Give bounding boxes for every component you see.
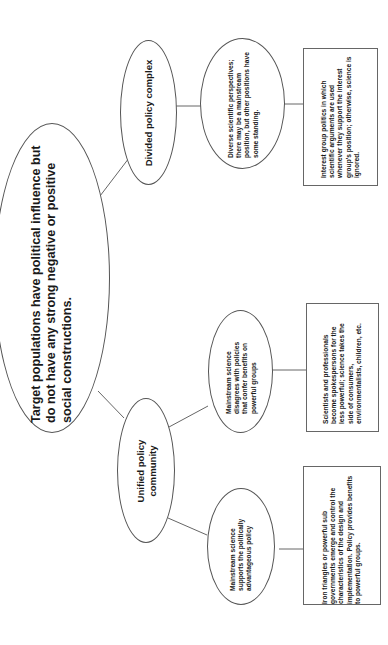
mainstream-supports-ellipse: Mainstream science supports the politica…	[207, 488, 275, 605]
mainstream-disagrees-ellipse: Mainstream science disagrees with polici…	[208, 310, 273, 433]
diverse-perspectives-ellipse: Diverse scientific perspectives; there m…	[200, 38, 285, 169]
iron-triangles-box: Iron triangles or powerful sub governmen…	[303, 466, 381, 605]
scientists-spokespersons-box: Scientists and professionals become spok…	[306, 303, 379, 432]
iron-triangles-text: Iron triangles or powerful sub governmen…	[321, 468, 362, 604]
unified-policy-community-label: Unified policy community	[135, 416, 158, 526]
diverse-perspectives-text: Diverse scientific perspectives; there m…	[226, 50, 259, 158]
unified-policy-community-ellipse: Unified policy community	[117, 398, 175, 543]
policy-diagram: Target populations have political influe…	[0, 0, 388, 645]
connector-unified-to-disagrees	[169, 406, 208, 427]
root-text: Target populations have political influe…	[29, 133, 75, 423]
mainstream-supports-text: Mainstream science supports the politica…	[229, 503, 254, 591]
connector-root-to-divided	[100, 158, 129, 196]
mainstream-disagrees-text: Mainstream science disagrees with polici…	[224, 330, 257, 414]
interest-group-politics-box: Interest group politics in which scienti…	[303, 48, 378, 186]
connector-root-to-unified	[98, 391, 124, 418]
divided-policy-complex-ellipse: Divided policy complex	[120, 40, 177, 185]
divided-policy-complex-label: Divided policy complex	[143, 58, 155, 168]
interest-group-politics-text: Interest group politics in which scienti…	[320, 56, 361, 178]
scientists-spokespersons-text: Scientists and professionals become spok…	[322, 312, 363, 424]
connector-unified-to-supports	[168, 518, 207, 535]
